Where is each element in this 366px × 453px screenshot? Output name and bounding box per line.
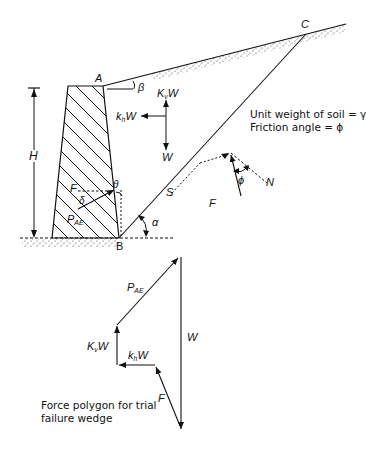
s-dashed-line-lower xyxy=(172,163,200,193)
s-label: S xyxy=(166,186,174,198)
retaining-wall-diagram: A B C β H KvW khW W α F δ θ PAE ϕ xyxy=(0,0,366,453)
force-polygon-caption-line2: failure wedge xyxy=(41,412,112,424)
polygon-w-label: W xyxy=(187,331,199,343)
retaining-wall xyxy=(40,18,140,326)
soil-unit-weight-text: Unit weight of soil = γ xyxy=(250,108,366,120)
polygon-f-label: F xyxy=(158,392,166,404)
backfill-stipple xyxy=(150,25,345,80)
polygon-pae-label: PAE xyxy=(127,281,144,294)
point-b-label: B xyxy=(116,240,123,252)
delta-label: δ xyxy=(79,195,85,206)
wedge-force-arrows xyxy=(141,100,166,150)
beta-angle-arc xyxy=(133,81,135,89)
weight-label: W xyxy=(162,151,174,163)
point-a-label: A xyxy=(94,72,102,84)
wall-pae-label: PAE xyxy=(67,213,84,226)
height-dimension xyxy=(28,88,40,238)
n-label: N xyxy=(266,176,274,188)
point-c-label: C xyxy=(301,18,309,30)
wall-f-label: F xyxy=(70,182,78,194)
phi-label: ϕ xyxy=(238,174,244,186)
beta-label: β xyxy=(137,81,145,93)
height-label: H xyxy=(29,149,38,163)
kh-w-label: khW xyxy=(116,110,137,123)
polygon-kv-label: KvW xyxy=(87,340,110,353)
backfill-surface-line xyxy=(103,24,346,86)
kv-w-label: KvW xyxy=(157,87,180,100)
ground-stipple xyxy=(22,239,120,247)
polygon-kh-label: khW xyxy=(128,349,149,362)
f-resultant-label: F xyxy=(209,197,217,209)
theta-label: θ xyxy=(113,179,119,190)
alpha-label: α xyxy=(152,216,159,228)
soil-friction-angle-text: Friction angle = ϕ xyxy=(250,121,343,133)
force-polygon-caption-line1: Force polygon for trial xyxy=(41,399,157,411)
